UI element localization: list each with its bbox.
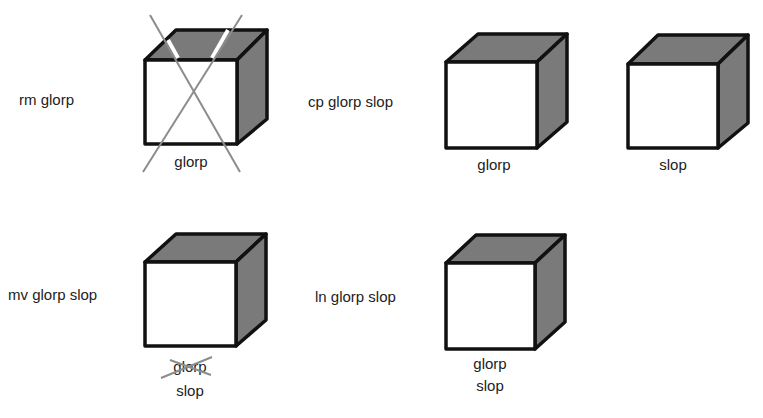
cube-glorp-deleted [145, 30, 267, 144]
cube-front-face [145, 60, 237, 144]
cube-linked [446, 235, 565, 349]
file-label-glorp: glorp [473, 355, 506, 372]
cube-renamed [145, 234, 266, 346]
command-label-ln: ln glorp slop [315, 288, 396, 305]
file-label-glorp: glorp [174, 153, 207, 170]
command-label-cp: cp glorp slop [308, 93, 393, 110]
command-label-mv: mv glorp slop [8, 286, 97, 303]
panel-ln: ln glorp slop glorp slop [315, 235, 565, 394]
cube-front-face [628, 64, 718, 148]
panel-mv: mv glorp slop glorp slop [8, 234, 266, 399]
file-label-new-slop: slop [176, 382, 204, 399]
cube-glorp [446, 34, 567, 148]
cube-front-face [446, 263, 535, 349]
file-label-slop: slop [659, 156, 687, 173]
cube-front-face [145, 262, 236, 346]
unix-file-commands-diagram: rm glorp glorp cp glorp slop glorp slop [0, 0, 763, 418]
file-label-glorp: glorp [477, 156, 510, 173]
command-label-rm: rm glorp [19, 91, 74, 108]
cube-front-face [446, 62, 537, 148]
panel-cp: cp glorp slop glorp slop [308, 34, 748, 173]
cube-slop [628, 35, 748, 148]
panel-rm: rm glorp glorp [19, 15, 267, 172]
file-label-slop: slop [476, 377, 504, 394]
